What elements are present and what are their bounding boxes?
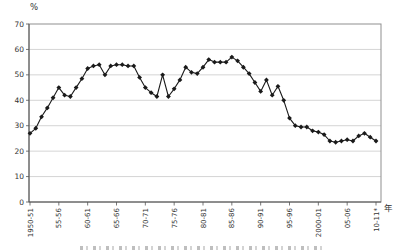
clipped-bottom-caption <box>80 246 325 250</box>
x-tick-label-80-81: 80-81 <box>200 208 208 228</box>
line-chart-figure: 0102030405060701950-5155-5660-6165-6670-… <box>0 0 400 250</box>
data-point-marker <box>85 66 90 71</box>
x-tick-label-90-91: 90-91 <box>257 208 265 228</box>
y-tick-label-30: 30 <box>14 121 24 130</box>
data-point-marker <box>97 62 102 67</box>
data-point-marker <box>281 98 286 103</box>
data-point-marker <box>160 72 165 77</box>
data-line <box>30 57 376 142</box>
x-tick-label-95-96: 95-96 <box>286 207 294 228</box>
x-tick-label-2000-01: 2000-01 <box>315 208 323 237</box>
y-tick-label-0: 0 <box>19 198 24 207</box>
data-point-marker <box>212 60 217 65</box>
data-point-marker <box>299 125 304 130</box>
data-point-marker <box>137 75 142 80</box>
x-tick-label-1950-51: 1950-51 <box>27 208 35 237</box>
y-tick-label-60: 60 <box>14 45 24 54</box>
x-tick-label-60-61: 60-61 <box>84 208 92 228</box>
y-tick-label-40: 40 <box>14 96 24 105</box>
data-point-marker <box>345 137 350 142</box>
chart-plot-area: 0102030405060701950-5155-5660-6165-6670-… <box>0 0 400 250</box>
x-tick-label-85-86: 85-86 <box>228 207 236 228</box>
plot-frame <box>29 24 381 202</box>
data-point-marker <box>126 64 131 69</box>
data-point-marker <box>120 62 125 67</box>
x-axis-unit-label: 年 <box>384 201 393 213</box>
data-point-marker <box>316 130 321 135</box>
data-point-marker <box>218 60 223 65</box>
data-point-marker <box>339 139 344 144</box>
data-point-marker <box>131 64 136 69</box>
y-axis-unit-label: % <box>30 2 38 12</box>
y-tick-label-70: 70 <box>14 20 24 29</box>
data-point-marker <box>51 95 56 100</box>
data-point-marker <box>91 64 96 69</box>
y-tick-label-50: 50 <box>14 70 24 79</box>
y-tick-label-20: 20 <box>14 147 24 156</box>
x-tick-label-65-66: 65-66 <box>113 207 121 228</box>
x-tick-label-05-06: 05-06 <box>344 207 352 228</box>
x-tick-label-75-76: 75-76 <box>171 207 179 228</box>
data-point-marker <box>114 62 119 67</box>
x-tick-label-55-56: 55-56 <box>55 207 63 228</box>
data-point-marker <box>264 78 269 83</box>
y-tick-label-10: 10 <box>14 172 24 181</box>
x-tick-label-70-71: 70-71 <box>142 208 150 228</box>
data-point-marker <box>333 140 338 145</box>
x-tick-label-10-11*: 10-11* <box>373 208 381 232</box>
